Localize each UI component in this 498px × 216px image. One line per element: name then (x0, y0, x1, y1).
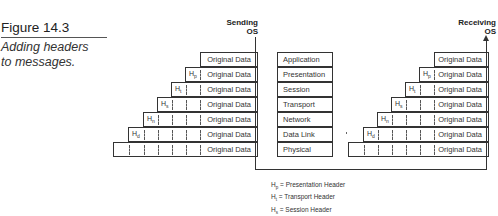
sending-row-presentation: Hp Original Data (185, 67, 258, 82)
original-data-label: Original Data (207, 100, 251, 109)
header-divider (420, 115, 421, 125)
legend-item-presentation: Hp = Presentation Header (271, 180, 345, 192)
figure-divider (1, 37, 107, 38)
header-divider (392, 145, 393, 155)
legend-item-session: Hs = Session Header (271, 205, 345, 216)
header-hd: Hd (367, 130, 375, 139)
header-divider (200, 85, 201, 95)
receiving-row-presentation: Hp Original Data (419, 67, 489, 82)
legend-subscript: s (276, 210, 278, 215)
header-divider (158, 145, 159, 155)
header-divider (186, 85, 187, 95)
header-divider (200, 130, 201, 140)
receiving-os-label: Receiving OS (430, 18, 496, 36)
layer-datalink: Data Link (277, 127, 333, 142)
sending-row-network: Hn Original Data (143, 112, 258, 127)
header-divider (158, 115, 159, 125)
header-divider (420, 85, 421, 95)
header-divider (434, 85, 435, 95)
header-divider (200, 100, 201, 110)
caption-line-2: to messages. (1, 55, 111, 70)
legend-subscript: t (276, 198, 277, 203)
original-data-label: Original Data (207, 70, 251, 79)
header-ht: Ht (409, 85, 415, 94)
original-data-label: Original Data (438, 145, 482, 154)
layer-label: Physical (283, 145, 311, 154)
header-divider (420, 130, 421, 140)
header-divider (392, 130, 393, 140)
header-divider (434, 115, 435, 125)
figure-caption: Adding headers to messages. (1, 40, 111, 70)
header-divider (364, 145, 365, 155)
receiving-label-line-1: Receiving (430, 18, 496, 27)
legend-item-transport: Ht = Transport Header (271, 192, 345, 204)
header-divider (186, 100, 187, 110)
header-divider (392, 115, 393, 125)
receiving-row-network: Hn Original Data (377, 112, 489, 127)
sending-row-physical: Original Data (113, 142, 258, 157)
header-divider (434, 70, 435, 80)
receiving-row-session: Ht Original Data (405, 82, 489, 97)
header-hs: Hs (395, 100, 403, 109)
sending-label-line-1: Sending (200, 18, 258, 27)
legend-text: = Session Header (280, 206, 332, 213)
header-divider (420, 100, 421, 110)
header-divider (186, 115, 187, 125)
header-hn: Hn (147, 115, 155, 124)
header-divider (378, 145, 379, 155)
caption-line-1: Adding headers (1, 40, 111, 55)
header-ht: Ht (175, 85, 181, 94)
layer-label: Network (283, 115, 311, 124)
header-divider (406, 145, 407, 155)
header-divider (406, 130, 407, 140)
original-data-label: Original Data (438, 55, 482, 64)
original-data-label: Original Data (438, 115, 482, 124)
layer-label: Session (283, 85, 310, 94)
header-divider (434, 100, 435, 110)
header-hp: Hp (423, 70, 431, 79)
sending-row-transport: Hs Original Data (157, 97, 258, 112)
header-divider (186, 145, 187, 155)
layer-label: Data Link (283, 130, 315, 139)
header-divider (434, 145, 435, 155)
original-data-label: Original Data (438, 85, 482, 94)
legend-text: = Transport Header (279, 193, 335, 200)
receiving-row-datalink: Hd Original Data (363, 127, 489, 142)
layer-physical: Physical (277, 142, 333, 157)
header-divider (406, 115, 407, 125)
original-data-label: Original Data (438, 130, 482, 139)
original-data-label: Original Data (438, 70, 482, 79)
legend-subscript: p (276, 185, 279, 190)
header-divider (172, 130, 173, 140)
receiving-up-line (486, 40, 487, 170)
sending-os-label: Sending OS (200, 18, 258, 36)
layer-transport: Transport (277, 97, 333, 112)
header-hn: Hn (381, 115, 389, 124)
original-data-label: Original Data (207, 130, 251, 139)
original-data-label: Original Data (438, 100, 482, 109)
header-divider (172, 145, 173, 155)
layer-label: Transport (283, 100, 315, 109)
sending-row-session: Ht Original Data (171, 82, 258, 97)
header-divider (200, 145, 201, 155)
layer-application: Application (277, 52, 333, 67)
figure-title: Figure 14.3 (1, 20, 69, 35)
layer-label: Application (283, 55, 320, 64)
original-data-label: Original Data (207, 85, 251, 94)
sending-label-line-2: OS (200, 27, 258, 36)
header-divider (144, 145, 145, 155)
header-divider (434, 130, 435, 140)
layer-presentation: Presentation (277, 67, 333, 82)
sending-row-application: Original Data (200, 52, 258, 67)
header-hd: Hd (132, 130, 140, 139)
header-divider (158, 130, 159, 140)
header-divider (172, 115, 173, 125)
header-divider (378, 130, 379, 140)
layer-label: Presentation (283, 70, 325, 79)
stray-mark (346, 132, 347, 134)
original-data-label: Original Data (207, 55, 251, 64)
header-hp: Hp (189, 70, 197, 79)
header-hs: Hs (161, 100, 169, 109)
legend: Hp = Presentation Header Ht = Transport … (271, 180, 345, 216)
receiving-row-application: Original Data (434, 52, 489, 67)
